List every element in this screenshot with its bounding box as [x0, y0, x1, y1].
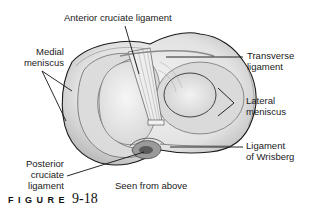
label-posterior-cruciate-ligament: Posterior cruciate ligament [8, 158, 64, 191]
label-anterior-cruciate-ligament: Anterior cruciate ligament [64, 12, 172, 23]
label-text: meniscus [246, 106, 286, 117]
lateral-condyle [164, 73, 216, 117]
label-text: ligament [247, 61, 294, 72]
view-note: Seen from above [115, 180, 187, 191]
figure-caption: FIGURE9-18 [8, 189, 98, 207]
label-transverse-ligament: Transverse ligament [247, 50, 294, 72]
label-text: Transverse [247, 50, 294, 61]
knee-meniscus-figure: Anterior cruciate ligament Medial menisc… [0, 0, 314, 209]
label-medial-meniscus: Medial meniscus [20, 46, 64, 68]
view-note-text: Seen from above [115, 180, 187, 191]
label-text: Anterior cruciate ligament [64, 12, 172, 23]
label-text: Medial [20, 46, 64, 57]
caption-word: FIGURE [8, 195, 69, 205]
label-lateral-meniscus: Lateral meniscus [246, 95, 286, 117]
label-ligament-of-wrisberg: Ligament of Wrisberg [246, 140, 294, 162]
label-text: Posterior [8, 158, 64, 169]
label-text: meniscus [20, 57, 64, 68]
caption-number: 9-18 [72, 191, 98, 206]
label-text: Ligament [246, 140, 294, 151]
label-text: of Wrisberg [246, 151, 294, 162]
label-text: Lateral [246, 95, 286, 106]
label-text: cruciate [8, 169, 64, 180]
